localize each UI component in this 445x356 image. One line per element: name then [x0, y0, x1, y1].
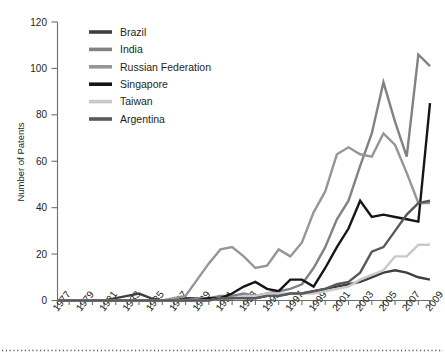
- legend-item-label: Taiwan: [120, 95, 153, 107]
- legend-item-label: Singapore: [120, 78, 168, 90]
- y-tick-label: 100: [30, 63, 47, 74]
- legend-item-label: Brazil: [120, 26, 146, 38]
- y-tick-label: 0: [41, 295, 47, 306]
- chart-canvas: 020406080100120 Number of Patents 197719…: [0, 0, 445, 356]
- y-tick-label: 80: [36, 109, 48, 120]
- legend-item-label: Argentina: [120, 113, 165, 125]
- y-tick-label: 120: [30, 17, 47, 28]
- legend-item-label: Russian Federation: [120, 61, 211, 73]
- y-tick-label: 60: [36, 156, 48, 167]
- y-axis-title: Number of Patents: [15, 122, 26, 201]
- patents-line-chart: 020406080100120 Number of Patents 197719…: [0, 0, 445, 356]
- y-tick-label: 40: [36, 202, 48, 213]
- y-tick-label: 20: [36, 249, 48, 260]
- legend-item-label: India: [120, 43, 143, 55]
